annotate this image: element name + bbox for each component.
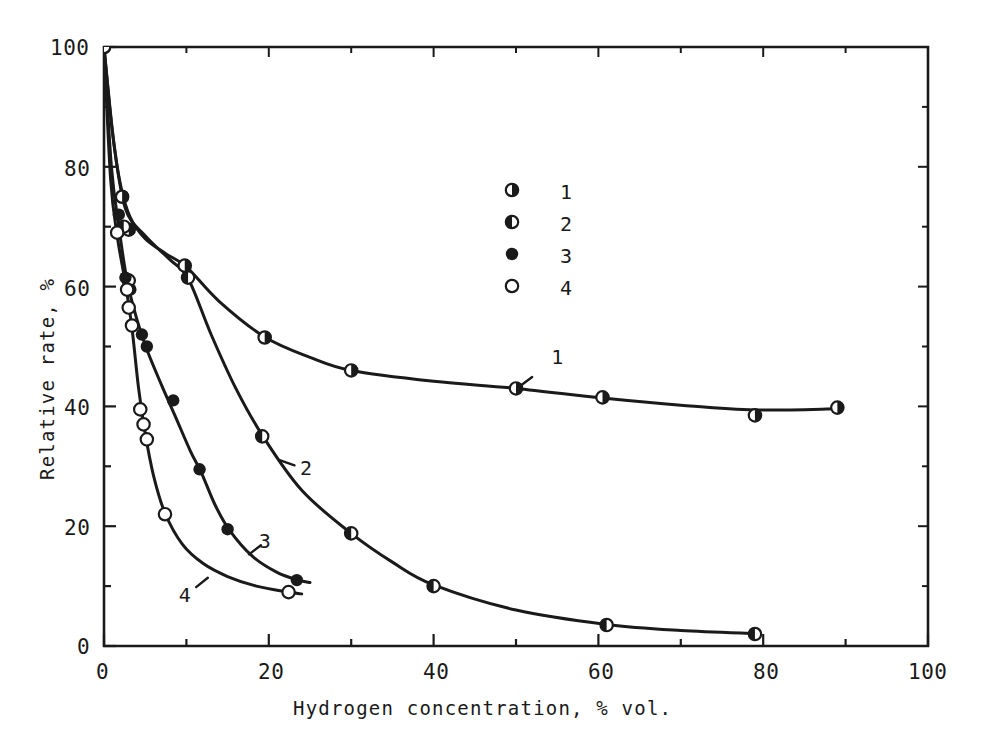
plot-frame: [104, 47, 928, 646]
x-tick-label: 100: [908, 660, 947, 684]
legend-label-4: 4: [560, 276, 572, 300]
y-tick-label: 60: [64, 277, 90, 301]
y-tick-label: 80: [64, 157, 90, 181]
x-tick-label: 60: [588, 660, 614, 684]
data-curves: [104, 47, 837, 633]
axis-ticks: [104, 47, 928, 646]
x-tick-label: 80: [753, 660, 779, 684]
y-axis-title: Relative rate, %: [36, 278, 58, 480]
curve-label-3: 3: [259, 529, 271, 553]
curve-label-1: 1: [551, 345, 563, 369]
y-tick-label: 0: [77, 635, 90, 659]
y-tick-label: 40: [64, 396, 90, 420]
x-tick-label: 0: [96, 660, 109, 684]
legend-label-1: 1: [560, 180, 572, 204]
curve-label-4: 4: [179, 583, 191, 607]
chart-canvas: [0, 0, 994, 746]
x-tick-label: 20: [258, 660, 284, 684]
curve-label-2: 2: [300, 456, 312, 480]
y-tick-label: 100: [50, 36, 89, 60]
data-markers: [98, 41, 844, 640]
y-tick-label: 20: [64, 516, 90, 540]
legend-label-3: 3: [560, 244, 572, 268]
legend-markers: [506, 184, 518, 292]
x-tick-label: 40: [423, 660, 449, 684]
x-axis-title: Hydrogen concentration, % vol.: [293, 697, 672, 719]
chart-figure: 0 20 40 60 80 100 0 20 40 60 80 100 Rela…: [0, 0, 994, 746]
legend-label-2: 2: [560, 212, 572, 236]
